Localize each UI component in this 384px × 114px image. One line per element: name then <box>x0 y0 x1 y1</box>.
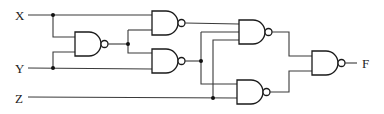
nand-gate-g2 <box>152 11 185 35</box>
nand-gate-g1 <box>75 32 108 56</box>
input-label-x: X <box>15 8 25 23</box>
junction-x <box>51 13 55 17</box>
logic-circuit-diagram: X Y Z F <box>0 0 384 114</box>
input-label-z: Z <box>15 91 23 106</box>
junction-z <box>211 96 215 100</box>
wire-z-to-g4 <box>211 40 239 100</box>
wire-g4-out <box>272 32 312 56</box>
output-label-f: F <box>362 56 369 71</box>
nand-gate-g4 <box>239 20 272 44</box>
nand-gate-g3 <box>152 49 185 73</box>
nand-gate-g6 <box>312 51 345 75</box>
wire-g5-out <box>270 71 312 92</box>
wire-g2-out <box>185 23 239 24</box>
junction-g1 <box>126 42 130 46</box>
nand-gate-g5 <box>237 80 270 104</box>
wire-g1-out <box>108 30 152 53</box>
junction-g3 <box>199 59 203 63</box>
junction-y <box>51 66 55 70</box>
input-label-y: Y <box>15 61 25 76</box>
wire-z <box>28 97 237 98</box>
